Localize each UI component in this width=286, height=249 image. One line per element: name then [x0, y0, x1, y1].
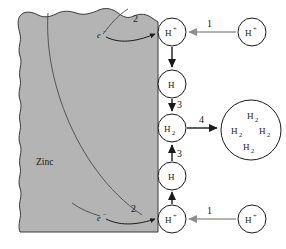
step-label-1-bottom: 1: [207, 205, 212, 216]
species-subscript: 2: [255, 116, 258, 123]
node-surface-h-plus-top: [158, 18, 186, 46]
species-text: H: [165, 28, 172, 38]
node-surface-h-plus-bottom: [158, 205, 186, 233]
step-label-4: 4: [199, 114, 204, 125]
node-h2-molecule: [158, 114, 186, 142]
species-text: H: [165, 215, 172, 225]
node-solution-h-plus-top: [238, 18, 266, 46]
species-superscript: +: [173, 25, 177, 32]
zinc-body-shape: [18, 9, 158, 232]
species-subscript: 2: [239, 131, 242, 138]
species-superscript: +: [253, 25, 257, 32]
electron-text: e: [97, 214, 101, 223]
species-text: H: [243, 142, 250, 152]
zinc-block: [18, 9, 158, 232]
species-superscript: +: [253, 212, 257, 219]
step-label-1-top: 1: [207, 18, 212, 29]
corrosion-hydrogen-diagram: Zinc H + H H 2 H H + H + H +: [0, 0, 286, 249]
electron-superscript: −: [103, 28, 107, 35]
species-subscript: 2: [267, 131, 270, 138]
species-text: H: [168, 80, 175, 90]
species-text: H: [245, 28, 252, 38]
species-text: H: [247, 111, 254, 121]
electron-superscript: −: [103, 211, 107, 218]
label-adsorbed-h-top: H: [168, 80, 175, 90]
step-label-3-top: 3: [177, 99, 182, 110]
label-adsorbed-h-bottom: H: [168, 172, 175, 182]
species-text: H: [259, 126, 266, 136]
species-text: H: [168, 172, 175, 182]
species-text: H: [164, 124, 171, 134]
species-subscript: 2: [172, 129, 175, 136]
species-subscript: 2: [251, 147, 254, 154]
species-text: H: [245, 215, 252, 225]
node-solution-h-plus-bottom: [238, 205, 266, 233]
species-superscript: +: [173, 212, 177, 219]
step-label-3-bottom: 3: [177, 148, 182, 159]
electron-text: e: [97, 31, 101, 40]
diagram-canvas: Zinc H + H H 2 H H + H + H +: [0, 0, 286, 249]
zinc-label: Zinc: [36, 157, 53, 167]
step-label-2-bottom: 2: [131, 203, 136, 214]
step-label-2-top: 2: [133, 13, 138, 24]
species-text: H: [231, 126, 238, 136]
